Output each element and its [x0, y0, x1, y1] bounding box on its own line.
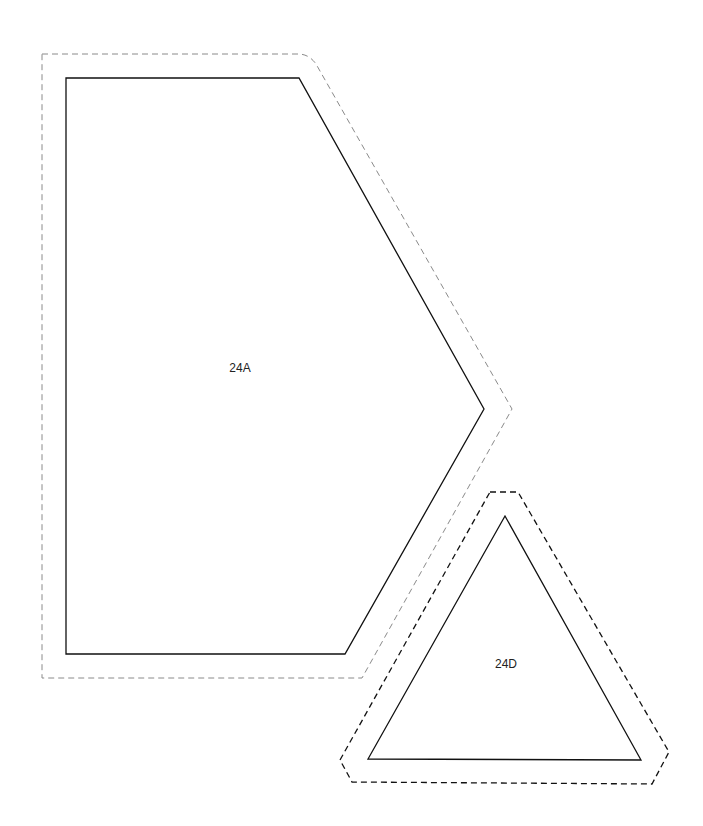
piece-24a: 24A — [42, 54, 512, 678]
seam-allowance-24a — [42, 54, 512, 678]
piece-24d: 24D — [340, 492, 669, 784]
piece-label-24d: 24D — [495, 657, 517, 671]
piece-label-24a: 24A — [229, 361, 250, 375]
seam-allowance-24d — [340, 492, 669, 784]
cut-line-24a — [66, 78, 484, 654]
pattern-sheet: 24A 24D — [0, 0, 703, 826]
